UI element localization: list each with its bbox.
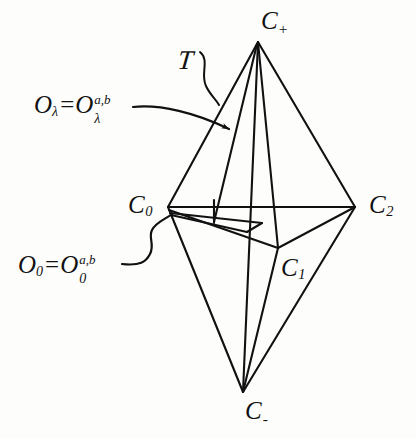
vertex-base-c-zero: C	[128, 191, 145, 218]
o-lambda-sup: a,b	[94, 93, 110, 106]
edge-c-minus-to-c-two	[243, 207, 355, 392]
vertex-script-c-plus: +	[278, 20, 288, 37]
vertex-label-c-zero: C0	[128, 192, 152, 219]
o-zero-pointer	[122, 214, 172, 265]
o-zero-base: O	[18, 251, 36, 278]
edge-c-minus-to-c-zero	[168, 207, 243, 392]
bipyramid-figure: C+ C0 C2 C1 C- T Oλ=Oa,bλ O0=Oa,b0	[0, 0, 416, 438]
vertex-label-c-two: C2	[369, 192, 393, 219]
o-lambda-arrow	[133, 106, 229, 129]
annotation-o-lambda: Oλ=Oa,bλ	[34, 92, 93, 119]
vertex-script-c-minus: -	[262, 410, 268, 427]
annotation-o-zero: O0=Oa,b0	[18, 252, 78, 279]
diagram-canvas	[0, 0, 416, 438]
vertex-label-c-one: C1	[281, 255, 305, 282]
o-lambda-base: O	[34, 91, 52, 118]
o-zero-sub: 0	[36, 264, 43, 279]
vertex-script-c-one: 1	[298, 266, 306, 282]
vertex-label-c-plus: C+	[261, 8, 287, 36]
o-lambda-equals: =	[58, 91, 75, 118]
o-zero-sup: a,b	[79, 253, 95, 266]
o-lambda-second-base: O	[75, 91, 93, 118]
o-zero-equals: =	[43, 251, 60, 278]
vertex-script-c-two: 2	[386, 203, 394, 219]
vertex-base-c-plus: C	[261, 7, 278, 34]
vertex-base-c-minus: C	[245, 397, 262, 424]
vertex-script-c-zero: 0	[145, 203, 153, 219]
vertex-base-c-two: C	[369, 191, 386, 218]
o-lambda-second-sub: λ	[94, 112, 100, 126]
o-zero-second-base: O	[60, 251, 78, 278]
o-zero-second-sub: 0	[79, 272, 86, 286]
vertex-label-c-minus: C-	[245, 398, 268, 426]
region-t-pointer	[200, 52, 219, 105]
vertex-base-c-one: C	[281, 254, 298, 281]
